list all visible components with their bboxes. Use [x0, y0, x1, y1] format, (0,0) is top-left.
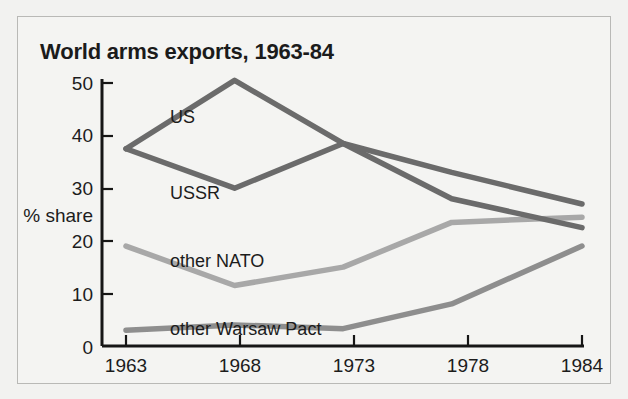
- x-tick-label-1963: 1963: [105, 355, 147, 376]
- series-label-ussr: USSR: [170, 183, 220, 203]
- chart-figure: World arms exports, 1963-84 50 40 30 20 …: [17, 16, 611, 384]
- series-label-us: US: [170, 107, 195, 127]
- y-tick-label-10: 10: [72, 284, 93, 305]
- chart-plot-area: 50 40 30 20 10 0 % share 1963 1968 1973 …: [18, 17, 612, 385]
- x-tick-label-1984: 1984: [561, 355, 604, 376]
- y-tick-label-50: 50: [72, 73, 93, 94]
- x-tick-label-1973: 1973: [333, 355, 375, 376]
- series-label-other-warsaw-pact: other Warsaw Pact: [170, 319, 321, 339]
- y-tick-label-30: 30: [72, 178, 93, 199]
- y-tick-label-20: 20: [72, 231, 93, 252]
- series-label-other-nato: other NATO: [170, 251, 264, 271]
- y-tick-label-0: 0: [82, 337, 93, 358]
- x-tick-label-1978: 1978: [447, 355, 489, 376]
- y-tick-label-40: 40: [72, 125, 93, 146]
- y-axis-title: % share: [23, 205, 93, 226]
- x-tick-label-1968: 1968: [219, 355, 261, 376]
